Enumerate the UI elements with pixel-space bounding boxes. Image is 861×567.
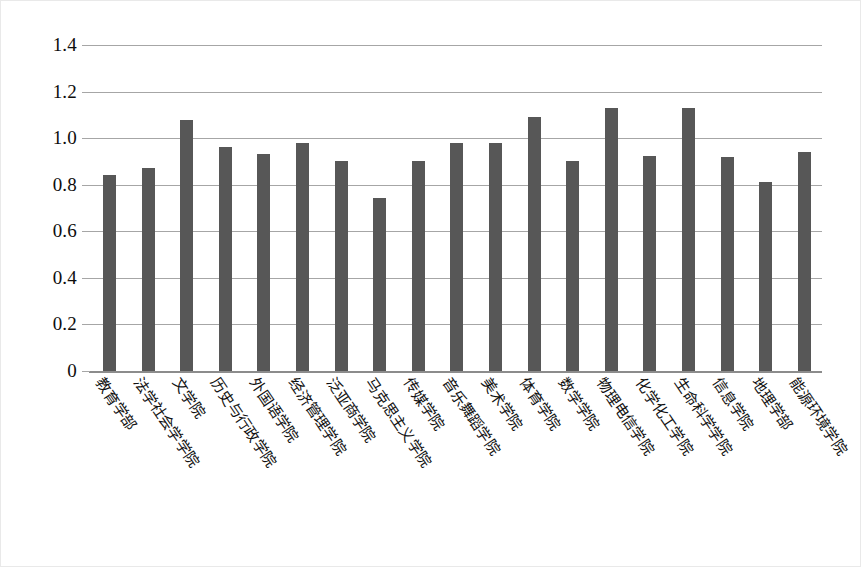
x-axis-category-label: 文学院 xyxy=(169,375,207,421)
bar xyxy=(566,161,579,371)
chart-container: 00.20.40.60.81.01.21.4 教育学部法学社会学学院文学院历史与… xyxy=(0,0,861,567)
y-axis: 00.20.40.60.81.01.21.4 xyxy=(19,1,77,567)
bar xyxy=(489,143,502,371)
y-axis-tick-label: 0.4 xyxy=(19,268,77,287)
bar xyxy=(759,182,772,371)
bar xyxy=(373,198,386,371)
y-axis-tick-label: 1.0 xyxy=(19,128,77,147)
bar xyxy=(257,154,270,371)
y-axis-tick-label: 0.2 xyxy=(19,314,77,333)
bar xyxy=(180,120,193,371)
x-axis-category-label: 能源环境学院 xyxy=(787,375,850,458)
bar xyxy=(142,168,155,371)
bar xyxy=(721,157,734,371)
bar xyxy=(643,156,656,371)
bar xyxy=(296,143,309,371)
bar xyxy=(412,161,425,371)
bar xyxy=(798,152,811,371)
bar xyxy=(103,175,116,371)
y-axis-tick-label: 1.4 xyxy=(19,35,77,54)
y-axis-tick-label: 0.8 xyxy=(19,175,77,194)
bar xyxy=(450,143,463,371)
y-axis-tick-label: 1.2 xyxy=(19,82,77,101)
y-axis-tick-label: 0.6 xyxy=(19,221,77,240)
plot-area: 00.20.40.60.81.01.21.4 教育学部法学社会学学院文学院历史与… xyxy=(1,1,861,567)
bar xyxy=(219,147,232,371)
bar xyxy=(605,108,618,371)
x-axis-labels-group: 教育学部法学社会学学院文学院历史与行政学院外国语学院经济管理学院泛亚商学院马克思… xyxy=(89,375,849,565)
bar xyxy=(335,161,348,371)
bar xyxy=(528,117,541,371)
bar xyxy=(682,108,695,371)
y-axis-tick-label: 0 xyxy=(19,361,77,380)
